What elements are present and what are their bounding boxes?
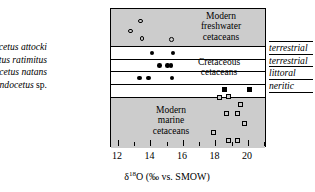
data-point-open-square: [226, 94, 231, 99]
x-tick-21: [264, 142, 265, 146]
label-line: marine: [125, 115, 217, 125]
taxon-name: Pakicetus attocki: [0, 41, 47, 52]
habitat-label-littoral: littoral: [269, 67, 296, 78]
data-point-open-square: [242, 121, 247, 126]
x-tick-label-20: 20: [235, 150, 259, 161]
x-tick-12: [118, 140, 119, 146]
data-point-filled-circle: [146, 76, 151, 81]
data-point-filled-circle: [137, 76, 142, 81]
data-point-open-square: [211, 130, 216, 135]
label-modern-freshwater: Modern freshwater cetaceans: [177, 11, 265, 42]
taxon-name: Ambulocetus natans: [0, 66, 47, 77]
x-tick-17: [199, 142, 200, 146]
data-point-open-square: [226, 138, 231, 143]
data-point-open-circle: [128, 29, 133, 34]
taxon-label-ambulocetus-natans: Ambulocetus natans: [0, 66, 47, 77]
figure-root: Modern freshwater cetaceans Cretaceous c…: [0, 0, 315, 192]
annotation-line: Cretaceous: [173, 57, 265, 67]
x-tick-label-12: 12: [105, 150, 129, 161]
label-line: freshwater: [177, 21, 265, 31]
taxon-label-indocetus-sp: Indocetus sp.: [0, 79, 47, 90]
data-point-open-square: [238, 102, 243, 107]
data-point-filled-square: [247, 87, 252, 92]
habitat-label-terrestrial-1: terrestrial: [269, 42, 308, 53]
label-line: Modern: [177, 11, 265, 21]
taxon-label-pakicetus-attocki: Pakicetus attocki: [0, 41, 47, 52]
x-tick-label-16: 16: [170, 150, 194, 161]
taxon-label-nalacetus-ratimitus: Nalacetus ratimitus: [0, 54, 47, 65]
annotation-line: cetaceans: [173, 67, 265, 77]
x-tick-label-18: 18: [203, 150, 227, 161]
band-indocetus-sp: [111, 84, 265, 97]
x-axis-title: δ18O (‰ vs. SMOW): [42, 170, 292, 182]
plot-area: Modern freshwater cetaceans Cretaceous c…: [110, 8, 266, 147]
data-point-filled-circle: [157, 63, 162, 68]
annotation-cretaceous-cetaceans: Cretaceous cetaceans: [173, 57, 265, 78]
habitat-label-neritic: neritic: [269, 80, 294, 91]
taxon-suffix: sp.: [34, 79, 47, 90]
data-point-open-circle: [140, 36, 145, 41]
data-point-open-square: [224, 111, 229, 116]
label-modern-marine: Modern marine cetaceans: [125, 105, 217, 136]
data-point-open-circle: [138, 19, 143, 24]
data-point-open-square: [217, 95, 222, 100]
data-point-filled-circle: [169, 63, 174, 68]
habitat-label-terrestrial-2: terrestrial: [269, 55, 308, 66]
x-tick-label-14: 14: [138, 150, 162, 161]
data-point-open-square: [235, 111, 240, 116]
x-tick-15: [167, 142, 168, 146]
data-point-open-square: [235, 138, 240, 143]
taxon-name: Nalacetus ratimitus: [0, 54, 47, 65]
data-point-filled-square: [222, 87, 227, 92]
x-tick-20: [248, 140, 249, 146]
label-line: Modern: [125, 105, 217, 115]
x-tick-19: [232, 142, 233, 146]
label-line: cetaceans: [125, 126, 217, 136]
axis-title-superscript: 18: [129, 170, 136, 178]
x-tick-13: [134, 142, 135, 146]
x-tick-14: [150, 140, 151, 146]
x-tick-18: [215, 140, 216, 146]
data-point-open-circle: [169, 37, 174, 42]
taxon-name: Indocetus: [0, 79, 34, 90]
habitat-divider: [269, 92, 313, 93]
label-line: cetaceans: [177, 32, 265, 42]
x-tick-16: [183, 140, 184, 146]
axis-title-rest: O (‰ vs. SMOW): [136, 171, 210, 182]
